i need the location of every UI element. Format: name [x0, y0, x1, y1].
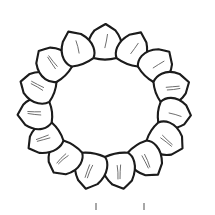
- figure-root: [0, 0, 215, 215]
- petal-vein: [120, 165, 121, 179]
- petal-ring-drawing: [0, 0, 215, 215]
- scale-tick-right: [143, 203, 145, 210]
- scale-tick-left: [95, 203, 97, 210]
